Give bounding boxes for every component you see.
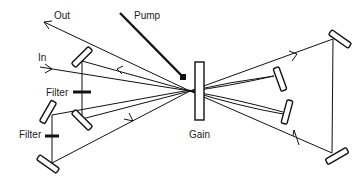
label-out: Out [54, 10, 70, 21]
beam-left-mid-to-gain [82, 91, 190, 119]
mirror-bottom-left [36, 155, 59, 174]
output-beam [44, 21, 190, 91]
mirror-center-right-upper [273, 67, 287, 92]
label-pump: Pump [134, 10, 161, 21]
mirror-far-right-bottom [325, 147, 349, 164]
pump-beam-tip-icon [180, 74, 186, 80]
beam-bottom-right-to-gain [190, 91, 332, 153]
mirror-left-outer [39, 100, 56, 124]
beam-vertical-right [332, 39, 333, 153]
ring-laser-diagram: Out Pump In Filter Filter Gain [0, 0, 363, 176]
label-in: In [38, 52, 46, 63]
label-gain: Gain [189, 129, 210, 140]
beam-bottom-left-to-gain [52, 91, 190, 163]
pump-beam [120, 13, 186, 80]
beam-left-outer-to-gain [52, 90, 190, 115]
label-filter-lower: Filter [19, 129, 42, 140]
gain-medium [195, 62, 204, 120]
beam-gain-to-top-right [190, 39, 333, 91]
label-filter-upper: Filter [46, 87, 69, 98]
